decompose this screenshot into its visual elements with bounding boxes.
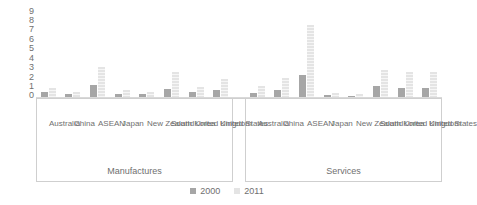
bar-2000 xyxy=(274,90,281,97)
bar-cluster xyxy=(368,8,393,97)
bar-2011 xyxy=(258,86,265,97)
x-labels-services: Australia China ASEAN Japan New Zealand … xyxy=(245,99,442,160)
legend-swatch-icon xyxy=(190,188,196,194)
bar-2011 xyxy=(197,87,204,97)
legend-label: 2000 xyxy=(200,186,220,196)
y-tick-5: 5 xyxy=(18,44,34,53)
x-label-cell: United States xyxy=(417,99,441,160)
bar-group-services xyxy=(245,8,442,97)
x-label-cell: Australia xyxy=(246,99,270,160)
y-axis: 9 8 7 6 5 4 3 2 1 0 xyxy=(18,0,34,105)
bar-2011 xyxy=(221,79,228,97)
x-label-cell: ASEAN xyxy=(295,99,319,160)
bar-2011 xyxy=(98,67,105,97)
bar-2011 xyxy=(430,72,437,97)
x-tick-label: United States xyxy=(429,119,464,128)
x-axis-labels: Australia China ASEAN Japan New Zealand … xyxy=(36,98,442,160)
bar-cluster xyxy=(294,8,319,97)
bar-cluster xyxy=(184,8,209,97)
y-tick-3: 3 xyxy=(18,63,34,72)
x-label-cell: Japan xyxy=(319,99,343,160)
bar-2000 xyxy=(299,75,306,97)
group-labels: Manufactures Services xyxy=(36,160,442,182)
bar-cluster xyxy=(208,8,233,97)
legend-label: 2011 xyxy=(244,186,263,196)
x-label-cell: China xyxy=(61,99,85,160)
bar-cluster xyxy=(417,8,442,97)
x-label-cell: South Korea xyxy=(159,99,183,160)
y-tick-7: 7 xyxy=(18,25,34,34)
bar-2000 xyxy=(398,88,405,97)
x-label-cell: Japan xyxy=(110,99,134,160)
x-label-cell: New Zealand xyxy=(135,99,159,160)
x-label-cell: China xyxy=(270,99,294,160)
bar-2000 xyxy=(373,86,380,97)
bar-cluster xyxy=(270,8,295,97)
bar-2011 xyxy=(123,90,130,97)
group-label-spacer xyxy=(233,160,245,182)
bar-cluster xyxy=(36,8,61,97)
x-label-cell: South Korea xyxy=(368,99,392,160)
group-label-manufactures: Manufactures xyxy=(36,160,233,182)
group-label-services: Services xyxy=(245,160,442,182)
bar-cluster xyxy=(344,8,369,97)
bar-2011 xyxy=(49,88,56,97)
bar-2011 xyxy=(172,72,179,97)
plot-area xyxy=(36,8,442,97)
y-tick-0: 0 xyxy=(18,91,34,100)
group-spacer xyxy=(233,8,245,97)
x-label-cell: New Zealand xyxy=(344,99,368,160)
x-label-cell: Australia xyxy=(37,99,61,160)
bar-2011 xyxy=(381,70,388,97)
bar-2011 xyxy=(406,72,413,98)
bar-cluster xyxy=(245,8,270,97)
bar-2011 xyxy=(282,78,289,97)
x-label-cell: United Kingdom xyxy=(392,99,416,160)
x-label-cell: ASEAN xyxy=(86,99,110,160)
bar-cluster xyxy=(110,8,135,97)
bar-cluster xyxy=(61,8,86,97)
legend-item-2011: 2011 xyxy=(234,186,263,196)
bar-2011 xyxy=(307,25,314,97)
bar-2000 xyxy=(164,89,171,97)
bar-group-manufactures xyxy=(36,8,233,97)
chart-legend: 2000 2011 xyxy=(0,184,454,198)
bar-cluster xyxy=(135,8,160,97)
legend-swatch-icon xyxy=(234,188,240,194)
x-label-cell: United Kingdom xyxy=(183,99,207,160)
bar-2000 xyxy=(213,90,220,97)
bar-2000 xyxy=(90,85,97,97)
group-label-text: Manufactures xyxy=(107,166,162,176)
x-labels-manufactures: Australia China ASEAN Japan New Zealand … xyxy=(36,99,233,160)
label-spacer xyxy=(233,99,245,160)
bar-cluster xyxy=(85,8,110,97)
legend-item-2000: 2000 xyxy=(190,186,220,196)
group-label-text: Services xyxy=(326,166,361,176)
bar-cluster xyxy=(393,8,418,97)
x-label-cell: United States xyxy=(208,99,232,160)
bar-cluster xyxy=(319,8,344,97)
bar-2000 xyxy=(422,88,429,97)
bar-cluster xyxy=(159,8,184,97)
